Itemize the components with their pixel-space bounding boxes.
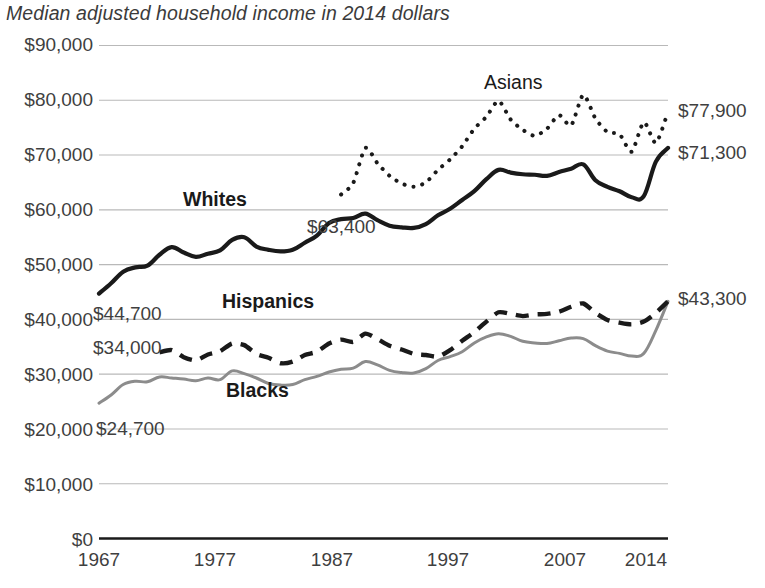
series-line-blacks	[99, 301, 668, 403]
annotation-whites-start: $44,700	[93, 303, 162, 325]
series-lines-group	[99, 95, 668, 403]
annotation-hispanics-start: $34,000	[93, 337, 162, 359]
xtick-label-1987: 1987	[302, 549, 362, 571]
series-label-hispanics: Hispanics	[222, 290, 314, 313]
line-chart-plot	[0, 0, 765, 588]
annotation-whites-end: $71,300	[678, 142, 747, 164]
annotation-whites-mid: $63,400	[307, 216, 376, 238]
series-line-asians	[341, 95, 668, 195]
ytick-label-50000: $50,000	[24, 254, 93, 276]
ytick-label-90000: $90,000	[24, 34, 93, 56]
series-label-asians: Asians	[484, 71, 543, 94]
ytick-label-80000: $80,000	[24, 89, 93, 111]
xtick-label-2014: 2014	[616, 549, 676, 571]
ytick-label-0: $0	[72, 529, 93, 551]
ytick-label-60000: $60,000	[24, 199, 93, 221]
ytick-label-30000: $30,000	[24, 364, 93, 386]
ytick-label-10000: $10,000	[24, 474, 93, 496]
series-label-whites: Whites	[183, 188, 247, 211]
xtick-label-1977: 1977	[185, 549, 245, 571]
annotation-asians-end: $77,900	[678, 100, 747, 122]
xtick-label-2007: 2007	[535, 549, 595, 571]
ytick-label-20000: $20,000	[24, 419, 93, 441]
xtick-label-1997: 1997	[418, 549, 478, 571]
gridlines-group	[99, 46, 668, 484]
chart-figure: Median adjusted household income in 2014…	[0, 0, 765, 588]
ytick-label-40000: $40,000	[24, 309, 93, 331]
annotation-blacks-start: $24,700	[96, 418, 165, 440]
annotation-hisp-black-end: $43,300	[678, 288, 747, 310]
series-label-blacks: Blacks	[226, 379, 289, 402]
ytick-label-70000: $70,000	[24, 144, 93, 166]
xtick-label-1967: 1967	[69, 549, 129, 571]
